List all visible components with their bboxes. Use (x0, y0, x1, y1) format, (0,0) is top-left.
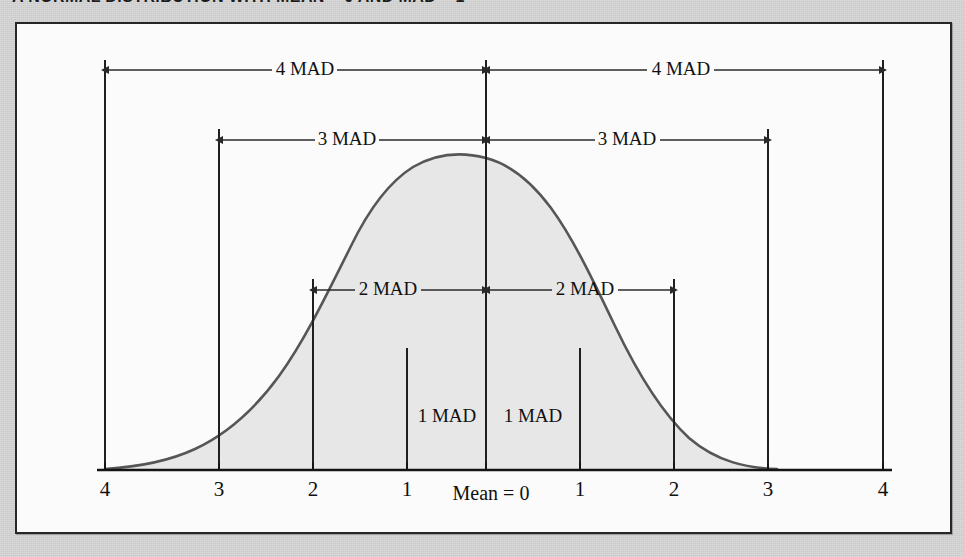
page-title: A NORMAL DISTRIBUTION WITH MEAN = 0 AND … (12, 0, 712, 7)
tick-label-right-1: 1 (575, 477, 586, 501)
tick-label-right-4: 4 (878, 477, 889, 501)
tick-label-right-2: 2 (669, 477, 680, 501)
span-4-mad-left: 4 MAD (109, 58, 482, 79)
span-3-mad-left: 3 MAD (223, 128, 482, 149)
span-2-mad-left-label: 2 MAD (359, 278, 418, 299)
figure-frame: 4 MAD 4 MAD 3 MAD 3 MAD 2 MAD 2 MAD (15, 22, 952, 534)
tick-label-left-1: 1 (402, 477, 413, 501)
normal-distribution-chart: 4 MAD 4 MAD 3 MAD 3 MAD 2 MAD 2 MAD (17, 24, 950, 532)
span-3-mad-left-label: 3 MAD (318, 128, 377, 149)
tick-label-right-3: 3 (763, 477, 774, 501)
tick-label-left-4: 4 (100, 477, 111, 501)
figure-title-strip: A NORMAL DISTRIBUTION WITH MEAN = 0 AND … (12, 0, 712, 7)
span-4-mad-right-label: 4 MAD (652, 58, 711, 79)
span-2-mad-right-label: 2 MAD (556, 278, 615, 299)
span-1-mad-left-label: 1 MAD (418, 405, 477, 426)
span-1-mad-right-label: 1 MAD (504, 405, 563, 426)
span-3-mad-right-label: 3 MAD (598, 128, 657, 149)
tick-label-left-3: 3 (214, 477, 225, 501)
span-4-mad-left-label: 4 MAD (276, 58, 335, 79)
span-4-mad-right: 4 MAD (490, 58, 879, 79)
span-3-mad-right: 3 MAD (490, 128, 764, 149)
mean-label: Mean = 0 (453, 482, 530, 504)
tick-label-left-2: 2 (308, 477, 319, 501)
